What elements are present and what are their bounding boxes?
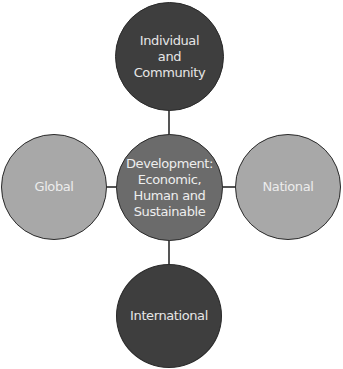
- connector-top-center: [168, 110, 170, 136]
- node-label: Individual and Community: [134, 33, 206, 81]
- node-label: National: [263, 179, 314, 195]
- connector-center-bottom: [168, 239, 170, 267]
- node-development-center: Development: Economic, Human and Sustain…: [116, 134, 223, 241]
- node-global: Global: [1, 134, 107, 240]
- node-label: Global: [34, 179, 73, 195]
- node-international: International: [116, 264, 222, 368]
- center-label: Development: Economic, Human and Sustain…: [126, 156, 213, 220]
- diagram-canvas: Individual and Community Development: Ec…: [0, 0, 343, 369]
- node-national: National: [235, 134, 341, 240]
- node-individual-and-community: Individual and Community: [115, 2, 224, 111]
- node-label: International: [130, 308, 208, 324]
